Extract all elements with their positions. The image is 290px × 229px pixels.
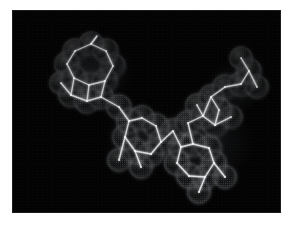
bond-vertex [192, 143, 194, 145]
molecular-render-canvas [13, 11, 280, 212]
bond-vertex [134, 150, 136, 152]
bond-vertex [172, 130, 174, 132]
bond-vertex [224, 176, 226, 178]
bond-vertex [118, 106, 120, 108]
bond-vertex [70, 94, 72, 96]
bond-vertex [160, 141, 162, 143]
bond-vertex [208, 147, 210, 149]
bond-vertex [140, 166, 142, 168]
bond-vertex [198, 191, 200, 193]
bond-vertex [196, 104, 198, 106]
bond-vertex [230, 116, 232, 118]
bond-vertex [256, 86, 258, 88]
bond-vertex [240, 83, 242, 85]
bond-vertex [176, 162, 178, 164]
van-der-waals-surface-layer [49, 31, 269, 204]
bond-vertex [124, 136, 126, 138]
figure-root [0, 0, 290, 229]
bond-vertex [188, 175, 190, 177]
bond-vertex [104, 80, 106, 82]
bond-vertex [214, 124, 216, 126]
bond-vertex [210, 96, 212, 98]
bond-vertex [60, 82, 62, 84]
bond-vertex [248, 70, 250, 72]
bond-vertex [105, 50, 107, 52]
molecule-render [13, 11, 280, 212]
bond-vertex [112, 65, 114, 67]
bond-vertex [128, 120, 130, 122]
bond-vertex [202, 115, 204, 117]
bond-vertex [88, 84, 90, 86]
bond-vertex [73, 77, 75, 79]
bond-vertex [118, 159, 120, 161]
bond-vertex [100, 96, 102, 98]
bond-vertex [150, 153, 152, 155]
bond-vertex [218, 109, 220, 111]
bond-vertex [213, 162, 215, 164]
bond-vertex [204, 176, 206, 178]
bond-vertex [240, 57, 242, 59]
bond-vertex [66, 63, 68, 65]
bond-vertex [141, 117, 143, 119]
bond-vertex [74, 50, 76, 52]
bond-vertex [86, 100, 88, 102]
bond-vertex [90, 43, 92, 45]
bond-vertex [155, 125, 157, 127]
bond-vertex [224, 86, 226, 88]
bond-vertex [187, 122, 189, 124]
bond-vertex [180, 146, 182, 148]
